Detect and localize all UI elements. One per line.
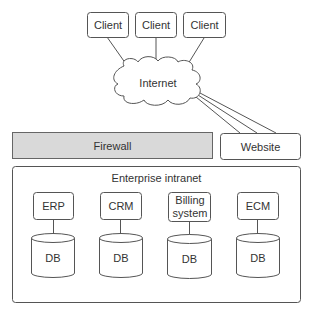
system-label-crm: CRM (100, 192, 142, 220)
db-label-ecm: DB (236, 248, 280, 268)
firewall-label: Firewall (12, 132, 213, 159)
db-label-crm: DB (99, 248, 143, 268)
client-label-2: Client (135, 12, 177, 38)
connector-client1-internet (107, 37, 126, 64)
db-label-billing: DB (167, 249, 212, 269)
system-label-erp: ERP (33, 192, 74, 220)
system-label-billing: Billing system (170, 192, 210, 222)
connector-client3-internet (188, 38, 204, 64)
intranet-label: Enterprise intranet (12, 170, 301, 186)
client-label-1: Client (87, 12, 129, 38)
connector-internet-website-3 (200, 93, 276, 133)
client-label-3: Client (183, 12, 226, 38)
system-label-ecm: ECM (237, 192, 279, 220)
connector-internet-website-2 (198, 95, 257, 133)
website-label: Website (220, 133, 301, 160)
internet-label: Internet (120, 74, 196, 92)
db-label-erp: DB (31, 248, 75, 268)
